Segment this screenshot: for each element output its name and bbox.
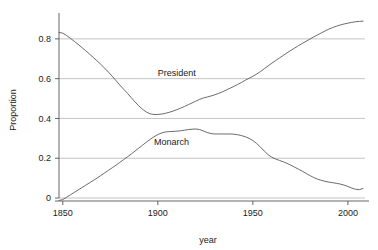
y-tick-label-1: 0.2 <box>38 153 51 163</box>
proportion-by-year-line-chart: 00.20.40.60.8 1850190019502000 President… <box>0 0 378 250</box>
series-annotations-group: PresidentMonarch <box>154 68 196 148</box>
series-label-monarch: Monarch <box>154 137 189 147</box>
y-tick-label-3: 0.6 <box>38 74 51 84</box>
x-tick-label-0: 1850 <box>53 208 73 218</box>
x-tick-label-3: 2000 <box>338 208 358 218</box>
y-tick-label-2: 0.4 <box>38 114 51 124</box>
series-label-president: President <box>158 68 197 78</box>
y-axis-title: Proportion <box>8 89 18 131</box>
x-tick-labels-group: 1850190019502000 <box>53 208 358 218</box>
gridlines-group <box>59 39 365 198</box>
axes-group <box>55 13 369 201</box>
series-line-monarch <box>59 129 363 200</box>
x-tick-label-2: 1950 <box>243 208 263 218</box>
y-tick-label-4: 0.8 <box>38 34 51 44</box>
x-axis-title: year <box>199 235 217 245</box>
chart-figure: 00.20.40.60.8 1850190019502000 President… <box>0 0 378 250</box>
y-tick-label-0: 0 <box>46 193 51 203</box>
x-tick-label-1: 1900 <box>148 208 168 218</box>
tick-marks-group <box>55 39 348 205</box>
series-line-president <box>59 21 363 114</box>
y-tick-labels-group: 00.20.40.60.8 <box>38 34 51 203</box>
series-lines-group <box>59 21 363 200</box>
